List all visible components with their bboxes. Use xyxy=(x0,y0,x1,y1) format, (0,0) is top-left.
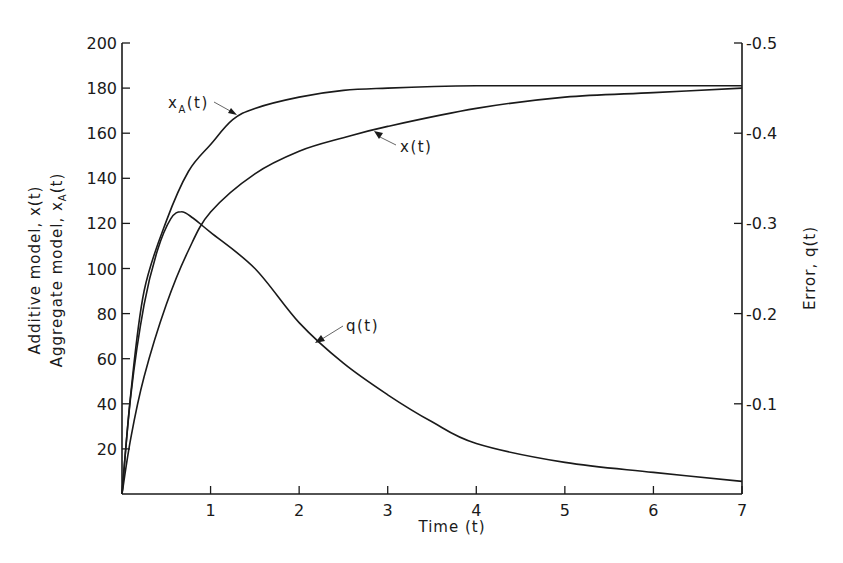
aggregate-label-subscript: A xyxy=(57,193,68,201)
y-tick-label-left: 140 xyxy=(86,169,117,188)
x-tick-label: 1 xyxy=(205,501,215,520)
annotation-q-label: q(t) xyxy=(346,317,379,335)
y-tick-label-left: 40 xyxy=(97,395,117,414)
x-axis-title: Time (t) xyxy=(417,518,485,536)
annotation-xA-label: xA(t) xyxy=(168,94,209,115)
arrow-icon xyxy=(228,108,237,115)
x-tick-label: 2 xyxy=(294,501,304,520)
x-tick-label: 5 xyxy=(560,501,570,520)
y-ticks-right: -0.1-0.2-0.3-0.4-0.5 xyxy=(734,34,777,414)
y-tick-label-left: 120 xyxy=(86,214,117,233)
x-tick-label: 6 xyxy=(648,501,658,520)
annotation-q-leader xyxy=(322,326,343,339)
y-tick-label-left: 100 xyxy=(86,260,117,279)
y-tick-label-left: 180 xyxy=(86,79,117,98)
aggregate-label-main: Aggregate model, x xyxy=(48,201,66,367)
y-axis-title-right: Error, q(t) xyxy=(801,226,819,310)
annotation-x: x(t) xyxy=(374,131,432,156)
aggregate-label-tail: (t) xyxy=(48,173,66,194)
y-tick-label-left: 20 xyxy=(97,440,117,459)
y-tick-label-right: -0.1 xyxy=(746,395,777,414)
x-tick-label: 7 xyxy=(737,501,747,520)
chart: 1234567 20406080100120140160180200 -0.1-… xyxy=(0,0,843,563)
y-tick-label-right: -0.5 xyxy=(746,34,777,53)
y-axis-title-left-additive: Additive model, x(t) xyxy=(26,186,44,355)
x-tick-label: 3 xyxy=(383,501,393,520)
axes xyxy=(122,43,742,494)
y-tick-label-right: -0.3 xyxy=(746,214,777,233)
annotation-x-label: x(t) xyxy=(400,138,432,156)
y-tick-label-left: 200 xyxy=(86,34,117,53)
y-tick-label-right: -0.2 xyxy=(746,305,777,324)
annotation-xA-leader xyxy=(214,102,232,112)
y-ticks-left: 20406080100120140160180200 xyxy=(86,34,130,459)
y-tick-label-left: 60 xyxy=(97,350,117,369)
y-tick-label-right: -0.4 xyxy=(746,124,777,143)
annotation-xA: xA(t) xyxy=(168,94,237,115)
y-axis-title-left-aggregate: Aggregate model, xA(t) xyxy=(48,173,68,368)
curve-qt xyxy=(122,212,742,494)
x-ticks: 1234567 xyxy=(205,486,747,520)
annotation-q: q(t) xyxy=(315,317,379,343)
annotation-x-leader xyxy=(380,137,396,145)
y-tick-label-left: 160 xyxy=(86,124,117,143)
y-tick-label-left: 80 xyxy=(97,305,117,324)
